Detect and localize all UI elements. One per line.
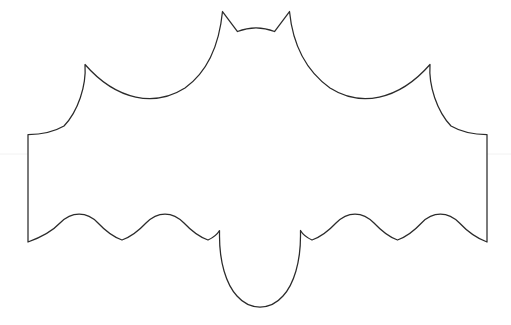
bat-outline-illustration xyxy=(0,0,511,325)
drawing-canvas: Bat Outline Template xyxy=(0,0,511,325)
